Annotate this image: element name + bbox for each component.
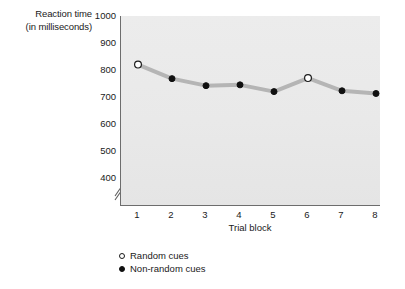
data-point-random — [135, 61, 142, 68]
data-point-random — [305, 75, 312, 82]
open-circle-icon — [118, 251, 127, 260]
x-tick-label: 1 — [125, 209, 149, 221]
reaction-time-line-chart: Reaction time (in milliseconds) 10009008… — [0, 0, 405, 289]
y-tick-label: 800 — [76, 65, 116, 75]
x-axis-tick-labels: 12345678 — [120, 209, 380, 223]
legend-label-non-random: Non-random cues — [130, 263, 206, 275]
y-tick-label: 400 — [76, 173, 116, 183]
legend-item-random: Random cues — [118, 249, 318, 262]
y-tick-label: 700 — [76, 92, 116, 102]
data-point-non-random — [373, 90, 379, 96]
x-tick-label: 7 — [329, 209, 353, 221]
x-tick-label: 4 — [227, 209, 251, 221]
chart-legend: Random cues Non-random cues — [118, 249, 318, 275]
x-axis-title: Trial block — [120, 222, 380, 234]
data-point-non-random — [237, 82, 243, 88]
y-tick-label: 1000 — [76, 11, 116, 21]
plot-area — [120, 16, 380, 206]
plot-series-layer — [121, 16, 380, 205]
y-tick-label: 600 — [76, 119, 116, 129]
filled-circle-icon — [118, 264, 127, 273]
x-tick-label: 6 — [295, 209, 319, 221]
y-tick-label: 900 — [76, 38, 116, 48]
x-tick-label: 8 — [363, 209, 387, 221]
data-point-non-random — [339, 88, 345, 94]
x-tick-label: 2 — [159, 209, 183, 221]
legend-item-non-random: Non-random cues — [118, 262, 318, 275]
data-point-non-random — [169, 76, 175, 82]
y-tick-label: 500 — [76, 146, 116, 156]
x-tick-label: 5 — [261, 209, 285, 221]
y-axis-tick-labels: 1000900800700600500400 — [74, 0, 116, 289]
x-tick-label: 3 — [193, 209, 217, 221]
legend-label-random: Random cues — [130, 250, 189, 262]
data-series-reaction-time — [121, 16, 381, 206]
data-point-non-random — [271, 89, 277, 95]
data-point-non-random — [203, 83, 209, 89]
